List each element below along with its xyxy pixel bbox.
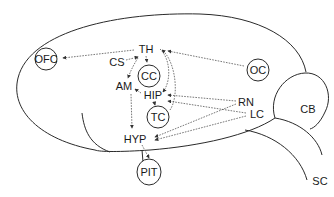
label-tc: TC: [151, 111, 166, 123]
label-ofc: OFC: [34, 53, 57, 65]
edge-th-cc: [146, 56, 147, 62]
edge-oc-th: [168, 51, 244, 66]
edge-lc-hip: [168, 101, 246, 113]
edge-cs-th: [126, 57, 138, 60]
label-cc: CC: [141, 70, 157, 82]
label-th: TH: [139, 43, 154, 55]
label-lc: LC: [250, 108, 264, 120]
pituitary-stalk: [142, 150, 143, 162]
edge-rn-hip: [168, 95, 236, 101]
edge-hip-tc: [154, 101, 155, 105]
label-hip: HIP: [144, 89, 162, 101]
edge-th-hip: [160, 49, 169, 92]
label-sc: SC: [312, 175, 327, 187]
cerebrum-bottom: [95, 118, 275, 152]
edge-th-am: [128, 58, 138, 78]
cerebrum-outline: [17, 14, 306, 150]
brainstem-lower: [245, 130, 307, 180]
brain-diagram: TH CS AM HIP HYP RN LC OFC CC OC TC PIT …: [0, 0, 334, 197]
label-oc: OC: [250, 64, 267, 76]
label-cb: CB: [300, 103, 315, 115]
temporal-lobe-line: [82, 113, 110, 152]
brainstem-upper: [275, 118, 322, 155]
edge-tc-th: [162, 50, 175, 110]
edge-am-hyp: [131, 94, 132, 128]
label-pit: PIT: [140, 166, 157, 178]
cerebellum-outline: [273, 73, 328, 129]
edge-hyp-pit: [142, 145, 149, 158]
edge-hip-am: [135, 89, 141, 93]
label-hyp: HYP: [124, 133, 147, 145]
label-cs: CS: [109, 56, 124, 68]
label-rn: RN: [238, 96, 254, 108]
label-am: AM: [116, 80, 133, 92]
